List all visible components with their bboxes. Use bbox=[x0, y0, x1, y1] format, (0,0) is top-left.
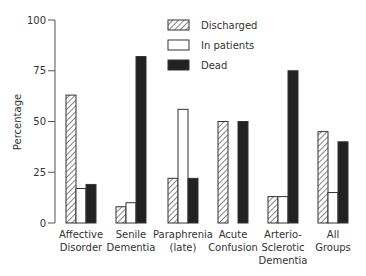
bar-dead bbox=[86, 184, 96, 223]
bar-discharged bbox=[318, 132, 328, 223]
bar-dead bbox=[136, 57, 146, 223]
legend: DischargedIn patientsDead bbox=[168, 20, 257, 71]
y-tick-label: 75 bbox=[33, 65, 46, 76]
bar-discharged bbox=[66, 95, 76, 223]
category-label: Disorder bbox=[60, 242, 103, 253]
y-tick-label: 100 bbox=[27, 15, 46, 26]
category-label: Dementia bbox=[259, 255, 308, 266]
bar-discharged bbox=[218, 122, 228, 224]
category-labels: AffectiveDisorderSenileDementiaParaphren… bbox=[59, 229, 351, 266]
y-tick-label: 0 bbox=[40, 218, 46, 229]
bar-dead bbox=[238, 122, 248, 224]
bar-discharged bbox=[268, 197, 278, 223]
bar-in-patients bbox=[76, 188, 86, 223]
category-label: Senile bbox=[116, 229, 147, 240]
category-label: Dementia bbox=[107, 242, 156, 253]
y-tick-label: 50 bbox=[33, 116, 46, 127]
bar-discharged bbox=[116, 207, 126, 223]
bar-in-patients bbox=[126, 203, 136, 223]
bar-dead bbox=[288, 71, 298, 223]
bar-chart: 0255075100 AffectiveDisorderSenileDement… bbox=[0, 0, 366, 276]
legend-label: Dead bbox=[201, 60, 227, 71]
category-label: Acute bbox=[219, 229, 248, 240]
category-label: All bbox=[327, 229, 339, 240]
y-axis-label: Percentage bbox=[12, 94, 23, 150]
bar-discharged bbox=[168, 178, 178, 223]
y-axis: 0255075100 bbox=[27, 15, 55, 229]
bar-in-patients bbox=[278, 197, 288, 223]
category-label: Groups bbox=[315, 242, 351, 253]
bar-in-patients bbox=[328, 193, 338, 223]
category-label: Paraphrenia bbox=[153, 229, 213, 240]
bars bbox=[66, 57, 348, 223]
legend-label: Discharged bbox=[201, 20, 257, 31]
legend-swatch-hatched bbox=[168, 20, 189, 30]
legend-swatch-black bbox=[168, 60, 189, 70]
category-label: (late) bbox=[170, 242, 197, 253]
y-tick-label: 25 bbox=[33, 167, 46, 178]
bar-in-patients bbox=[178, 109, 188, 223]
category-label: Confusion bbox=[208, 242, 258, 253]
category-label: Affective bbox=[59, 229, 103, 240]
bar-dead bbox=[338, 142, 348, 223]
legend-label: In patients bbox=[201, 40, 254, 51]
legend-swatch-white bbox=[168, 40, 189, 50]
category-label: Arterio- bbox=[264, 229, 302, 240]
bar-dead bbox=[188, 178, 198, 223]
category-label: Sclerotic bbox=[262, 242, 305, 253]
